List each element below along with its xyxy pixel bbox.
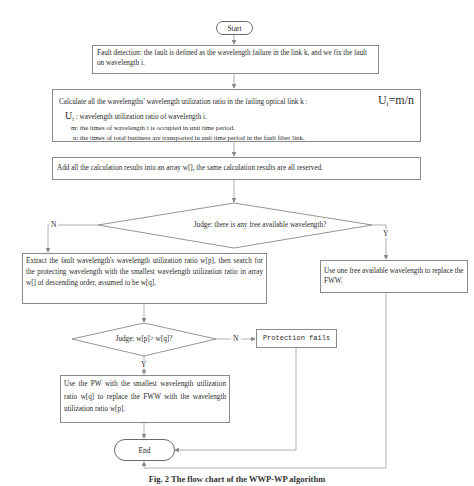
start-node: Start: [216, 21, 253, 35]
use-free-wavelength-box: Use one free available wavelength to rep…: [320, 260, 468, 293]
edge-label-no: N: [51, 220, 56, 229]
start-label: Start: [227, 24, 241, 33]
decision-compare-text: Judge: w[p]> w[q]?: [94, 335, 194, 343]
def-m-text: m: the times of wavelength i is occupied…: [71, 123, 414, 132]
use-free-text: Use one free available wavelength to rep…: [324, 267, 464, 286]
protection-fails-box: Protection fails: [256, 329, 337, 348]
figure-caption: Fig. 2 The flow chart of the WWP-WP algo…: [0, 474, 474, 484]
flowchart-canvas: Start Fault detection: the fault is defi…: [0, 0, 474, 486]
protection-fails-text: Protection fails: [263, 334, 330, 343]
edge-label-no: N: [233, 334, 238, 343]
def-subscript: i: [72, 116, 74, 122]
use-pw-box: Use the PW with the smallest wavelength …: [60, 375, 230, 423]
def-n-text: n: the times of total business are trans…: [73, 133, 414, 142]
end-node: End: [114, 439, 175, 461]
extract-ratio-box: Extract the fault wavelength's wavelengt…: [22, 253, 267, 304]
decision-free-wavelength-text: Judge: there is any free available wavel…: [160, 221, 360, 229]
edge-label-yes: Y: [141, 360, 146, 369]
calculate-text: Calculate all the wavelengths' wavelengt…: [59, 98, 308, 108]
fault-detection-box: Fault detection: the fault is defined as…: [92, 45, 379, 74]
def-ui-text: : wavelength utilization ratio of wavele…: [76, 113, 207, 121]
formula-symbol: U: [378, 93, 387, 107]
calculate-ratio-box: Calculate all the wavelengths' wavelengt…: [52, 89, 421, 142]
use-pw-text: Use the PW with the smallest wavelength …: [64, 380, 226, 413]
extract-text: Extract the fault wavelength's wavelengt…: [26, 257, 263, 287]
add-results-text: Add all the calculation results into an …: [57, 164, 323, 174]
formula-rhs: =m/n: [389, 93, 414, 107]
edge-label-yes: Y: [383, 229, 388, 238]
end-label: End: [138, 446, 150, 455]
add-results-box: Add all the calculation results into an …: [52, 157, 421, 180]
formula: Ui=m/n: [378, 92, 414, 110]
fault-detection-text: Fault detection: the fault is defined as…: [97, 49, 367, 67]
